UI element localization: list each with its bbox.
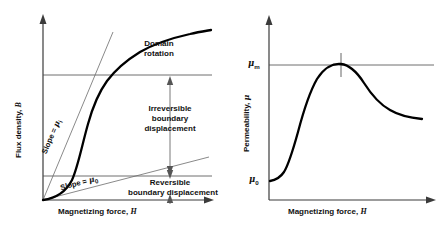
domain-rotation-line1: Domain (144, 39, 174, 49)
left-y-axis-arrowhead (40, 14, 47, 24)
irreversible-line1: Irreversible (137, 104, 203, 114)
permeability-curve (270, 64, 422, 181)
annotation-domain-rotation: Domain rotation (144, 39, 174, 59)
left-x-axis-label: Magnetizing force, H (58, 207, 137, 217)
left-y-axis-label: Flux density, B (14, 102, 24, 158)
right-y-axis-label-symbol: μ (241, 95, 251, 101)
mu-zero-subscript: 0 (255, 179, 258, 186)
reversible-line2: boundary displacement (128, 188, 212, 198)
domain-rotation-line2: rotation (144, 49, 174, 59)
ytick-label-mu-zero: μ0 (249, 174, 259, 186)
tangent-mu-i (43, 32, 113, 200)
left-x-axis-arrowhead (204, 197, 214, 204)
right-x-axis-arrowhead (426, 197, 436, 204)
right-chart-svg (224, 0, 448, 235)
left-y-axis-label-symbol: B (14, 102, 23, 107)
left-x-axis-label-text: Magnetizing force, (58, 207, 130, 216)
right-y-axis-label: Permeability, μ (242, 95, 252, 152)
mu-max-subscript: m (254, 63, 260, 70)
right-x-axis-label: Magnetizing force, H (288, 207, 367, 217)
reversible-line1: Reversible (128, 178, 212, 188)
annotation-reversible-boundary-displacement: Reversible boundary displacement (128, 178, 212, 198)
right-x-axis-label-symbol: H (360, 207, 366, 216)
right-axes (266, 15, 437, 204)
right-y-axis-label-text: Permeability, (242, 101, 251, 152)
irreversible-line2: boundary (137, 114, 203, 124)
chart-panel-permeability: Permeability, μ Magnetizing force, H μm … (224, 0, 448, 235)
irreversible-line3: displacement (137, 124, 203, 134)
left-y-axis-label-text: Flux density, (14, 107, 23, 158)
ytick-label-mu-max: μm (248, 58, 260, 70)
right-y-axis-arrowhead (266, 15, 273, 25)
chart-panel-flux-density: Flux density, B Magnetizing force, H Dom… (0, 0, 224, 235)
right-x-axis-label-text: Magnetizing force, (288, 207, 360, 216)
figure-root: Flux density, B Magnetizing force, H Dom… (0, 0, 448, 235)
left-x-axis-label-symbol: H (130, 207, 136, 216)
annotation-irreversible-boundary-displacement: Irreversible boundary displacement (137, 104, 203, 133)
